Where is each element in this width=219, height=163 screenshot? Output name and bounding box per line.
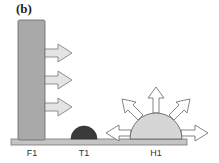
arrow-right-icon bbox=[45, 98, 72, 116]
t1-dome bbox=[71, 126, 97, 139]
f1-pillar bbox=[18, 20, 45, 140]
arrow-right-icon bbox=[45, 71, 72, 89]
label-f1: F1 bbox=[27, 148, 38, 158]
arrow-right-icon bbox=[45, 44, 72, 62]
arrow-up-left-icon bbox=[122, 99, 143, 120]
diagram-canvas bbox=[0, 0, 219, 163]
label-h1: H1 bbox=[150, 148, 162, 158]
arrow-up-right-icon bbox=[169, 99, 190, 120]
label-t1: T1 bbox=[79, 148, 90, 158]
f1-arrows bbox=[45, 44, 72, 116]
arrow-up-icon bbox=[148, 87, 164, 113]
